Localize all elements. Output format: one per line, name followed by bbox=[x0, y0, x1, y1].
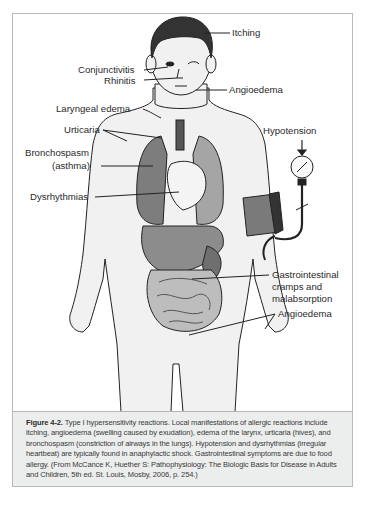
label-urticaria: Urticaria bbox=[64, 124, 100, 135]
figure-caption: Figure 4-2. Type I hypersensitivity reac… bbox=[13, 411, 352, 486]
label-dysrhythmias: Dysrhythmias bbox=[30, 191, 88, 202]
label-angioedema-face: Angioedema bbox=[229, 84, 283, 95]
label-laryngeal-edema: Laryngeal edema bbox=[56, 103, 130, 114]
label-itching: Itching bbox=[232, 27, 260, 38]
figure-frame: Itching Conjunctivitis Rhinitis Angioede… bbox=[12, 13, 353, 487]
human-body-diagram bbox=[13, 14, 354, 412]
anatomy-illustration: Itching Conjunctivitis Rhinitis Angioede… bbox=[13, 14, 354, 412]
label-conjunctivitis: Conjunctivitis bbox=[78, 64, 135, 75]
label-malabsorption: malabsorption bbox=[272, 293, 332, 304]
caption-text: Type I hypersensitivity reactions. Local… bbox=[26, 418, 337, 479]
figure-number: Figure 4-2. bbox=[26, 418, 63, 427]
label-bronchospasm: Bronchospasm bbox=[25, 147, 89, 158]
label-gastrointestinal: Gastrointestinal bbox=[272, 269, 339, 280]
label-rhinitis: Rhinitis bbox=[104, 75, 135, 86]
label-angioedema-body: Angioedema bbox=[278, 308, 332, 319]
label-hypotension: Hypotension bbox=[263, 125, 316, 136]
label-asthma: (asthma) bbox=[52, 160, 90, 171]
label-cramps-and: cramps and bbox=[272, 281, 322, 292]
